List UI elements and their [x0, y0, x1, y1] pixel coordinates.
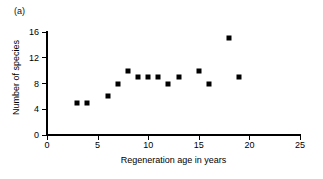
- data-point-marker: [196, 68, 201, 73]
- scatter-chart-figure: (a) 0481216 0510152025 Regeneration age …: [0, 0, 323, 179]
- data-point-marker: [156, 75, 161, 80]
- data-point-marker: [136, 75, 141, 80]
- data-point-marker: [146, 75, 151, 80]
- y-tick-mark: [42, 32, 46, 33]
- y-tick-label: 8: [23, 79, 39, 89]
- data-point-marker: [206, 81, 211, 86]
- data-point-marker: [166, 81, 171, 86]
- plot-area: [47, 32, 300, 135]
- panel-label: (a): [14, 6, 25, 17]
- y-tick-label: 0: [23, 130, 39, 140]
- y-axis-title: Number of species: [11, 18, 22, 138]
- data-point-marker: [75, 100, 80, 105]
- x-tick-label: 0: [37, 140, 57, 150]
- data-point-marker: [125, 68, 130, 73]
- y-tick-mark: [42, 135, 46, 136]
- y-tick-label: 4: [23, 104, 39, 114]
- x-tick-label: 20: [239, 140, 259, 150]
- x-tick-label: 5: [88, 140, 108, 150]
- y-tick-mark: [42, 83, 46, 84]
- y-tick-mark: [42, 109, 46, 110]
- x-tick-label: 25: [290, 140, 310, 150]
- data-point-marker: [105, 94, 110, 99]
- y-tick-mark: [42, 57, 46, 58]
- data-point-marker: [115, 81, 120, 86]
- x-axis-title: Regeneration age in years: [47, 155, 300, 166]
- x-tick-label: 15: [189, 140, 209, 150]
- data-point-marker: [85, 100, 90, 105]
- x-tick-label: 10: [138, 140, 158, 150]
- data-point-marker: [176, 75, 181, 80]
- data-point-marker: [237, 75, 242, 80]
- y-tick-label: 12: [23, 53, 39, 63]
- data-point-marker: [227, 36, 232, 41]
- y-tick-label: 16: [23, 27, 39, 37]
